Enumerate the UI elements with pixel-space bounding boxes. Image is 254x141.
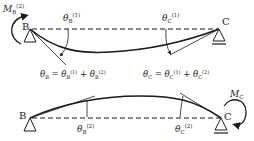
top-node-c-label: C bbox=[222, 16, 230, 27]
beam-rotation-diagram: B C MB(2) θB(1) θC(1) θB = θB(1) + θB(2)… bbox=[0, 0, 254, 141]
top-theta-c-arc bbox=[166, 29, 170, 53]
bottom-beam-diagram: B C MC θB(2) θC(2) bbox=[19, 89, 246, 135]
top-deflected-curve bbox=[30, 29, 219, 52]
bottom-tangent-b bbox=[30, 96, 95, 118]
bottom-node-b-label: B bbox=[19, 110, 26, 121]
bottom-moment-label: MC bbox=[229, 89, 243, 100]
top-moment-label: MB(2) bbox=[2, 3, 24, 15]
equation-theta-c: θC = θC(1) + θC(2) bbox=[143, 69, 209, 80]
top-theta-b-arc bbox=[61, 29, 68, 55]
equation-theta-b: θB = θB(1) + θB(2) bbox=[40, 69, 106, 80]
bottom-theta-b-label: θB(2) bbox=[77, 123, 94, 135]
top-theta-c-label: θC(1) bbox=[162, 12, 179, 24]
bottom-node-c-label: C bbox=[224, 111, 232, 122]
top-node-b-label: B bbox=[22, 21, 29, 32]
bottom-theta-c-label: θC(2) bbox=[175, 123, 192, 135]
equations: θB = θB(1) + θB(2) θC = θC(1) + θC(2) bbox=[40, 69, 209, 80]
bottom-deflected-curve bbox=[30, 96, 221, 118]
top-beam-diagram: B C MB(2) θB(1) θC(1) bbox=[2, 3, 230, 65]
bottom-tangent-c bbox=[180, 93, 221, 118]
top-theta-b-label: θB(1) bbox=[63, 12, 80, 24]
